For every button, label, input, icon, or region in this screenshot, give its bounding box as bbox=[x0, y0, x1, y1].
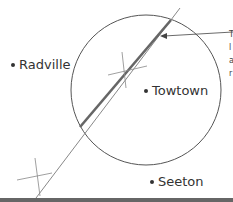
arrow-pointer bbox=[160, 32, 233, 39]
label-radville: Radville bbox=[19, 57, 71, 72]
annotation-fragment: r bbox=[229, 69, 233, 78]
label-towtown: Towtown bbox=[152, 83, 208, 98]
radville-dot bbox=[11, 63, 15, 67]
annotation-fragment: l bbox=[229, 43, 231, 52]
label-seeton: Seeton bbox=[158, 174, 204, 189]
seeton-dot bbox=[150, 180, 154, 184]
construction-mark-lower bbox=[17, 158, 52, 196]
annotation-fragment: T bbox=[228, 30, 233, 39]
towtown-dot bbox=[144, 89, 148, 93]
geometry-canvas: T l a r bbox=[0, 0, 233, 202]
bottom-border bbox=[0, 198, 233, 202]
diagram: T l a r Radville Towtown Seeton bbox=[0, 0, 233, 202]
annotation-fragment: a bbox=[229, 56, 233, 65]
